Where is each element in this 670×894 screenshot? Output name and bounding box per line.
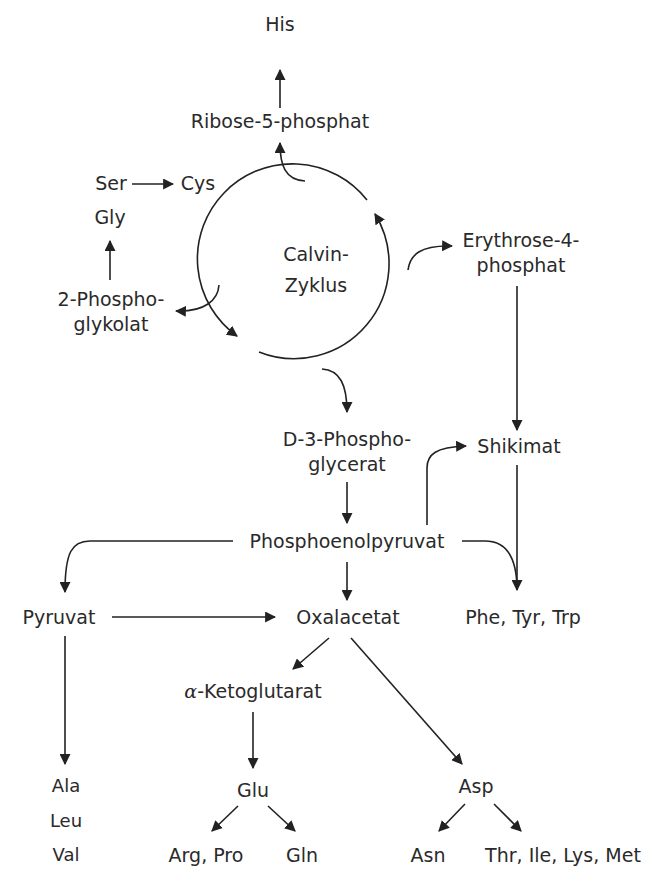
label-phe-tyr-trp: Phe, Tyr, Trp (465, 606, 581, 628)
pathway-diagram: His Ribose-5-phosphat Ser Cys Gly 2-Phos… (0, 0, 670, 894)
label-phosphoglykolat-2: glykolat (74, 313, 149, 335)
label-thr-ile-lys-met: Thr, Ile, Lys, Met (484, 844, 641, 866)
label-phosphoenolpyruvat: Phosphoenolpyruvat (250, 530, 445, 552)
label-arg-pro: Arg, Pro (169, 844, 244, 866)
label-ser: Ser (95, 172, 127, 194)
label-shikimat: Shikimat (477, 435, 560, 457)
ketoglutarat-text: -Ketoglutarat (197, 680, 322, 702)
label-pga-1: D-3-Phospho- (283, 428, 411, 450)
label-glu: Glu (237, 779, 269, 801)
label-ribose-5-phosphat: Ribose-5-phosphat (191, 110, 369, 132)
alpha-symbol: α (184, 680, 197, 702)
label-pyruvat: Pyruvat (23, 606, 96, 628)
edge-asp-asn (439, 804, 465, 831)
label-gln: Gln (286, 844, 318, 866)
label-ala: Ala (52, 775, 80, 796)
label-his: His (265, 13, 294, 35)
label-gly: Gly (94, 206, 125, 228)
edge-oxalacetat-ketoglutarat (293, 638, 329, 669)
label-val: Val (53, 844, 80, 865)
label-cys: Cys (181, 172, 215, 194)
edge-oxalacetat-asp (351, 638, 462, 764)
edge-asp-thr (494, 804, 521, 831)
edge-pep-aromatic (462, 541, 517, 590)
edge-cycle-ribose (280, 143, 305, 181)
label-pga-2: glycerat (308, 453, 386, 475)
label-calvin-1: Calvin- (283, 243, 349, 265)
label-asp: Asp (459, 775, 494, 797)
edge-pep-pyruvat (65, 541, 233, 592)
edge-cycle-phosphoglykolat (176, 285, 219, 311)
label-asn: Asn (411, 844, 446, 866)
edge-pep-shikimat (427, 446, 466, 525)
label-ketoglutarat: α-Ketoglutarat (184, 680, 321, 702)
edge-glu-gln (268, 806, 295, 831)
edge-cycle-pga (322, 369, 347, 412)
label-leu: Leu (50, 810, 82, 831)
label-calvin-2: Zyklus (285, 274, 347, 296)
label-phosphoglykolat-1: 2-Phospho- (58, 288, 165, 310)
edge-glu-argpro (212, 806, 238, 831)
label-oxalacetat: Oxalacetat (296, 606, 399, 628)
label-erythrose-1: Erythrose-4- (463, 229, 580, 251)
edge-cycle-erythrose (408, 246, 452, 270)
label-erythrose-2: phosphat (477, 254, 566, 276)
